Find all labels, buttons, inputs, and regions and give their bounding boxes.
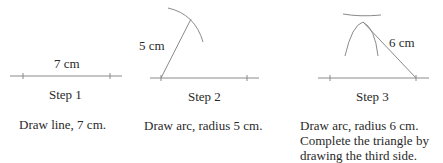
step3-arc-intersect xyxy=(343,14,381,16)
step2-arc xyxy=(168,8,203,42)
step2-caption: Draw arc, radius 5 cm. xyxy=(144,118,262,134)
step3-measure: 6 cm xyxy=(389,35,415,51)
step1-title: Step 1 xyxy=(49,87,82,103)
step1-caption: Draw line, 7 cm. xyxy=(19,117,106,133)
step2-measure: 5 cm xyxy=(139,38,165,54)
step3-title: Step 3 xyxy=(356,89,389,105)
step2-radius-line xyxy=(161,19,191,78)
step1-measure: 7 cm xyxy=(54,56,80,72)
step3-arc xyxy=(345,22,378,56)
step3-caption-line3: drawing the third side. xyxy=(300,148,417,163)
step3-caption-line1: Draw arc, radius 6 cm. xyxy=(300,118,418,134)
step2-title: Step 2 xyxy=(188,89,221,105)
step3-caption-line2: Complete the triangle by xyxy=(300,133,429,149)
